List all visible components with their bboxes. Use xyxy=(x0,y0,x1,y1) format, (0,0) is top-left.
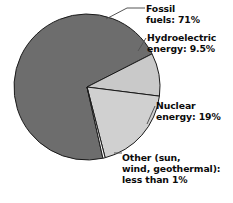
pie-label-other-line3: less than 1% xyxy=(122,174,188,185)
pie-label-hydroelectric-line1: Hydroelectric xyxy=(147,32,216,43)
pie-label-hydroelectric-energy: Hydroelectricenergy: 9.5% xyxy=(147,32,216,54)
pie-label-hydroelectric-line2: energy: 9.5% xyxy=(147,43,215,54)
pie-label-fossil-fuels-line2: fuels: 71% xyxy=(146,14,200,25)
pie-label-nuclear-line1: Nuclear xyxy=(156,100,196,111)
pie-label-nuclear-energy: Nuclearenergy: 19% xyxy=(156,100,221,122)
pie-label-nuclear-line2: energy: 19% xyxy=(156,111,221,122)
pie-label-fossil-fuels: Fossilfuels: 71% xyxy=(146,3,200,25)
pie-chart-figure: Fossilfuels: 71% Hydroelectricenergy: 9.… xyxy=(0,0,233,203)
pie-label-fossil-fuels-line1: Fossil xyxy=(146,3,175,14)
pie-label-other-sources: Other (sun,wind, geothermal):less than 1… xyxy=(122,152,220,186)
leader-line-fossil-fuels xyxy=(106,8,145,19)
pie-label-other-line1: Other (sun, xyxy=(122,152,181,163)
pie-label-other-line2: wind, geothermal): xyxy=(122,163,220,174)
